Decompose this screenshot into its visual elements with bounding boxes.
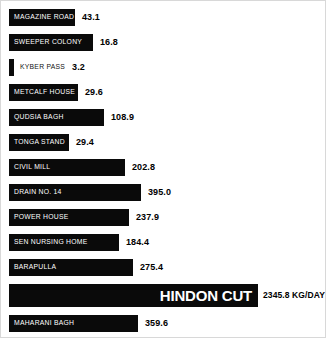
bar-wrap: METCALF HOUSE	[9, 84, 78, 101]
bar-wrap: SEN NURSING HOME	[9, 234, 119, 251]
bar-value: 184.4	[126, 238, 149, 247]
bar-label: MAGAZINE ROAD	[9, 14, 74, 21]
bar: SWEEPER COLONY	[9, 34, 93, 51]
bar-chart: MAGAZINE ROAD43.1SWEEPER COLONY16.8KYBER…	[0, 0, 326, 338]
bar-row: POWER HOUSE237.9	[1, 205, 326, 230]
bar-value: 16.8	[100, 38, 118, 47]
bar-label: METCALF HOUSE	[9, 89, 75, 96]
bar-wrap: DRAIN NO. 14	[9, 184, 141, 201]
bar: MAHARANI BAGH	[9, 315, 138, 332]
bar-wrap: MAHARANI BAGH	[9, 315, 138, 332]
bar: TONGA STAND	[9, 134, 69, 151]
bar-label: CIVIL MILL	[9, 164, 50, 171]
bar: CIVIL MILL	[9, 159, 125, 176]
bar-value: 395.0	[148, 188, 171, 197]
bar-label: MAHARANI BAGH	[9, 320, 74, 327]
bar-wrap: HINDON CUT	[9, 284, 258, 307]
bar-value: 43.1	[82, 13, 100, 22]
bar: METCALF HOUSE	[9, 84, 78, 101]
bar-label: TONGA STAND	[9, 139, 65, 146]
bar-wrap: BARAPULLA	[9, 259, 133, 276]
bar-row: CIVIL MILL202.8	[1, 155, 326, 180]
bar: QUDSIA BAGH	[9, 109, 104, 126]
bar: DRAIN NO. 14	[9, 184, 141, 201]
bar-label: BARAPULLA	[9, 264, 56, 271]
bar-wrap: CIVIL MILL	[9, 159, 125, 176]
bar-value: 275.4	[140, 263, 163, 272]
bar-wrap: TONGA STAND	[9, 134, 69, 151]
bar-row: QUDSIA BAGH108.9	[1, 105, 326, 130]
bar: SEN NURSING HOME	[9, 234, 119, 251]
bar-row: SWEEPER COLONY16.8	[1, 30, 326, 55]
bar-wrap: SWEEPER COLONY	[9, 34, 93, 51]
bar-label: HINDON CUT	[160, 288, 258, 303]
bar-value: 2345.8 KG/DAY	[263, 291, 325, 300]
bar-value: 237.9	[136, 213, 159, 222]
bar-row: KYBER PASS3.2	[1, 55, 326, 80]
bar-value: 29.6	[85, 88, 103, 97]
bar-wrap: MAGAZINE ROAD	[9, 9, 75, 26]
bar-label: KYBER PASS	[14, 64, 65, 71]
bar-wrap: QUDSIA BAGH	[9, 109, 104, 126]
bar-label: DRAIN NO. 14	[9, 189, 62, 196]
bar-row: MAHARANI BAGH359.6	[1, 311, 326, 336]
bar: BARAPULLA	[9, 259, 133, 276]
bar: MAGAZINE ROAD	[9, 9, 75, 26]
bar-value: 29.4	[76, 138, 94, 147]
bar-label: SEN NURSING HOME	[9, 239, 88, 246]
bar-wrap: KYBER PASS	[9, 59, 65, 76]
bar-row-list: MAGAZINE ROAD43.1SWEEPER COLONY16.8KYBER…	[1, 1, 326, 336]
bar-value: 108.9	[111, 113, 134, 122]
bar-wrap: POWER HOUSE	[9, 209, 129, 226]
bar-row: MAGAZINE ROAD43.1	[1, 5, 326, 30]
bar-row: TONGA STAND29.4	[1, 130, 326, 155]
bar-label: QUDSIA BAGH	[9, 114, 64, 121]
bar: HINDON CUT	[9, 284, 258, 307]
bar-value: 3.2	[72, 63, 85, 72]
bar-row: SEN NURSING HOME184.4	[1, 230, 326, 255]
bar-value: 202.8	[132, 163, 155, 172]
bar-row: METCALF HOUSE29.6	[1, 80, 326, 105]
bar-row: HINDON CUT2345.8 KG/DAY	[1, 280, 326, 311]
bar-label: SWEEPER COLONY	[9, 39, 82, 46]
bar-row: BARAPULLA275.4	[1, 255, 326, 280]
bar-value: 359.6	[145, 319, 168, 328]
bar-label: POWER HOUSE	[9, 214, 69, 221]
bar: POWER HOUSE	[9, 209, 129, 226]
bar-row: DRAIN NO. 14395.0	[1, 180, 326, 205]
